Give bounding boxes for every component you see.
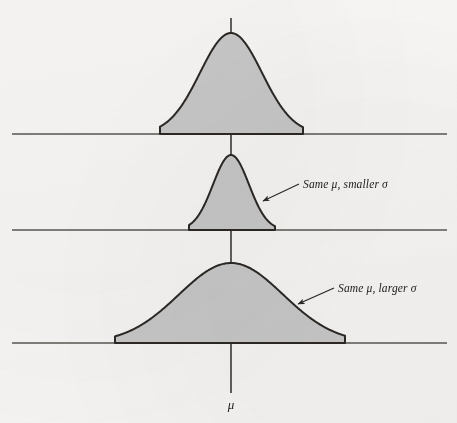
- annotation-larger-sigma: Same μ, larger σ: [338, 282, 418, 295]
- arrow-smaller-sigma-icon: [263, 184, 299, 201]
- annotation-smaller-sigma: Same μ, smaller σ: [303, 178, 389, 191]
- normal-curve-larger-sigma: [115, 263, 345, 343]
- arrow-larger-sigma-icon: [298, 288, 334, 304]
- normal-distribution-figure: Same μ, smaller σ Same μ, larger σ μ: [0, 0, 457, 423]
- normal-curve-reference: [160, 33, 303, 134]
- normal-curve-smaller-sigma: [189, 155, 275, 230]
- mu-axis-label: μ: [227, 397, 235, 412]
- distribution-plot-canvas: Same μ, smaller σ Same μ, larger σ μ: [0, 0, 457, 423]
